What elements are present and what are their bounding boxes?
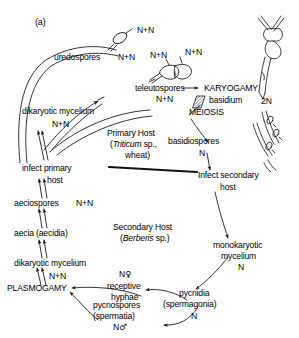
basidiospores-nuclear-label: N (199, 148, 205, 158)
pycnidia-line2: (spermagonia) (163, 299, 216, 309)
arrow-monokaryotic-to-pycnidia (196, 257, 228, 289)
arrow-aecia-to-aeciospores-a (39, 209, 42, 228)
arrow-aecia-to-aeciospores-b (44, 209, 47, 228)
arrow-dikaryotic2-to-aecia-a (39, 240, 42, 258)
uredospores-label: uredospores (54, 52, 100, 62)
arrow-basidiospores-to-infect-secondary (207, 153, 210, 170)
uredospore-illustration (108, 29, 132, 51)
pycnospores-line2: (spermatia) (93, 311, 135, 321)
primary-host-common-name: wheat) (125, 150, 150, 160)
arrow-aeciospores-to-infect-a (39, 179, 42, 198)
arrow-infect-secondary-to-monokaryotic (215, 192, 228, 238)
infect-secondary-host-line1: Infect secondary (198, 170, 259, 180)
secondary-host-title: Secondary Host (113, 222, 172, 232)
aecia-label: aecia (aecidia) (14, 228, 68, 238)
primary-host-title: Primary Host (107, 128, 155, 138)
dikaryotic-mycelium-secondary-label: dikaryotic mycelium (14, 258, 86, 268)
plasmogamy-label: PLASMOGAMY (7, 283, 67, 293)
dikaryotic-mycelium-primary-label: dikaryotic mycelium (22, 106, 94, 116)
panel-label: (a) (35, 17, 46, 27)
pycnospores-sex-label: N♂ (113, 322, 127, 332)
monokaryotic-mycelium-line1: monokaryotic (213, 240, 262, 250)
teleutospore-cell2-nuclear-label: N+N (185, 47, 202, 57)
aeciospores-nuclear-label: N+N (76, 198, 93, 208)
infect-primary-host-line1: infect primary (22, 163, 71, 173)
secondary-host-genus: Berberis (123, 233, 154, 243)
pycnidia-nuclear-label: N (191, 311, 197, 321)
karyogamy-label: KARYOGAMY (204, 83, 258, 93)
meiosis-label: MEIOSIS (189, 107, 224, 117)
figure-canvas: (a) N+N uredospores N+N N+N N+N teleutos… (0, 0, 299, 338)
pycnospores-line1: pycnospores (93, 300, 140, 310)
dikaryotic-mycelium-primary-nuclear-label: N+N (52, 119, 69, 129)
aeciospores-label: aeciospores (14, 198, 59, 208)
plant-illustration-top-right (258, 16, 284, 99)
monokaryotic-mycelium-nuclear-label: N (238, 262, 244, 272)
female-symbol-icon: ♀ (125, 269, 131, 279)
secondary-host-species-rest: sp.) (154, 233, 170, 243)
teleutospore-illustration (149, 57, 191, 83)
uredospores-nuclear-label: N+N (118, 52, 135, 62)
receptive-hyphae-line1: receptive (107, 281, 141, 291)
uredospore-drawing-nuclear-label: N+N (137, 25, 154, 35)
primary-host-species: (Triticum sp., (110, 139, 157, 149)
pycnidia-line1: pycnidia (179, 288, 209, 298)
teleutospore-cell1-nuclear-label: N+N (150, 50, 167, 60)
teleutospores-label: teleutospores (135, 83, 185, 93)
teleutospores-nuclear-label: N+N (156, 94, 173, 104)
secondary-host-species: (Berberis sp.) (120, 233, 170, 243)
host-divider-line (109, 167, 197, 172)
basidiospore-illustration-right (253, 111, 282, 156)
primary-host-species-rest: sp., (141, 139, 157, 149)
basidium-nuclear-label: 2N (261, 96, 272, 106)
receptive-hyphae-sex-label: N♀ (119, 269, 131, 279)
basidium-label: basidium (209, 95, 242, 105)
male-symbol-icon: ♂ (119, 322, 126, 332)
primary-host-genus: Triticum (113, 139, 142, 149)
monokaryotic-mycelium-line2: mycelium (221, 251, 256, 261)
arrow-dikaryotic2-to-aecia-b (44, 240, 47, 258)
infect-primary-host-line2: host (47, 175, 63, 185)
infect-secondary-host-line2: host (220, 182, 236, 192)
dikaryotic-mycelium-secondary-nuclear-label: N+N (49, 271, 66, 281)
basidiospores-label: basidiospores (168, 136, 219, 146)
